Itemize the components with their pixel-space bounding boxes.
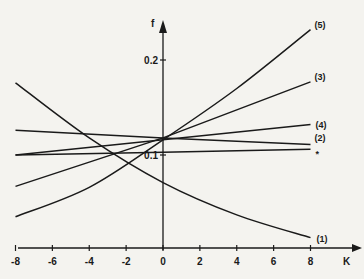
curve-label: (4) xyxy=(316,120,327,130)
x-tick-label: 8 xyxy=(308,256,314,267)
x-tick-label: 4 xyxy=(234,256,240,267)
axes: K f xyxy=(18,18,362,267)
y-axis-title: f xyxy=(151,18,155,29)
y-tick-label: 0.1 xyxy=(144,150,158,161)
curve-labels: (1)(5)(3)(4)(2)* xyxy=(315,20,328,244)
x-axis-title: K xyxy=(343,256,351,267)
curve-label: (2) xyxy=(315,133,326,143)
chart: K f -8-6-4-202468 0.10.2 (1)(5)(3)(4)(2)… xyxy=(0,0,364,279)
x-tick-label: 0 xyxy=(160,256,166,267)
x-axis-arrow-icon xyxy=(352,244,362,252)
x-tick-label: -4 xyxy=(85,256,94,267)
curve-label: (3) xyxy=(315,72,326,82)
x-tick-label: -6 xyxy=(48,256,57,267)
y-axis-arrow-icon xyxy=(159,20,167,33)
curve-label: * xyxy=(316,149,320,159)
curve-label: (1) xyxy=(317,234,328,244)
x-tick-label: -8 xyxy=(11,256,20,267)
y-tick-label: 0.2 xyxy=(144,55,158,66)
curve-label: (5) xyxy=(315,20,326,30)
x-tick-label: 2 xyxy=(197,256,203,267)
x-tick-label: 6 xyxy=(271,256,277,267)
x-tick-label: -2 xyxy=(122,256,131,267)
